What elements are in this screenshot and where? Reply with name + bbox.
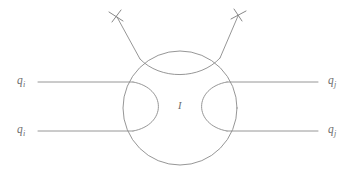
left-emitted-line [117, 17, 140, 59]
top-internal-arc [140, 58, 220, 75]
diagram-canvas [0, 0, 354, 177]
feynman-diagram-figure: qi qi qj qj I [0, 0, 354, 177]
label-upper-outgoing-sub: j [334, 80, 336, 89]
left-internal-arc [133, 82, 159, 131]
blob-label: I [178, 101, 182, 112]
label-lower-incoming-quark: qi [17, 124, 25, 136]
label-upper-outgoing-quark: qj [328, 75, 336, 87]
label-lower-outgoing-quark: qj [328, 124, 336, 136]
label-upper-incoming-sub: i [23, 80, 25, 89]
label-lower-incoming-sub: i [23, 129, 25, 138]
right-internal-arc [202, 82, 228, 131]
label-lower-incoming-base: q [17, 123, 23, 135]
label-upper-outgoing-base: q [328, 74, 334, 86]
label-lower-outgoing-base: q [328, 123, 334, 135]
label-lower-outgoing-sub: j [334, 129, 336, 138]
right-emitted-line [220, 16, 238, 58]
left-cross-marker [109, 10, 123, 22]
label-upper-incoming-quark: qi [17, 75, 25, 87]
label-upper-incoming-base: q [17, 74, 23, 86]
right-cross-marker [231, 9, 246, 21]
